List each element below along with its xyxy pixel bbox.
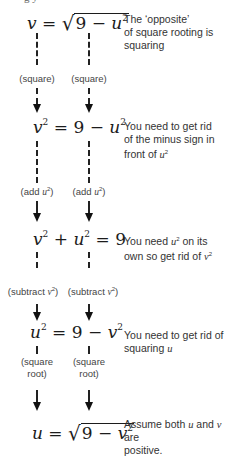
note-4: You need to get rid of squaring u	[124, 329, 239, 355]
equation-4: u2 = 9 − v2	[30, 322, 123, 342]
arrow-down-icon	[85, 213, 93, 222]
radical-sign-icon: √	[68, 421, 81, 445]
operation-label-left: (subtract v2)	[2, 286, 64, 297]
dashed-connector	[36, 141, 38, 183]
eq1-equals: =	[42, 13, 56, 33]
dashed-connector	[88, 304, 90, 312]
dashed-connector	[36, 201, 38, 213]
arrow-down-icon	[85, 104, 93, 113]
note-1: The ‘opposite’ of square rooting is squa…	[124, 13, 239, 52]
dashed-connector	[36, 88, 38, 104]
equation-5: u = √9 − v2	[32, 420, 134, 444]
dashed-connector	[88, 252, 90, 268]
dashed-connector	[88, 141, 90, 183]
arrow-down-icon	[33, 213, 41, 222]
dashed-connector	[88, 390, 90, 402]
eq1-lhs: v	[27, 13, 37, 33]
arrow-down-icon	[85, 402, 93, 411]
dashed-connector	[36, 346, 38, 354]
dashed-connector	[36, 33, 38, 65]
note-3: You need u2 on its own so get rid of v2	[124, 233, 239, 263]
note-2: You need to get rid of the minus sign in…	[124, 120, 239, 161]
operation-label-right: (square)	[58, 73, 120, 84]
note-5: Assume both u and v are positive.	[124, 418, 239, 457]
operation-label-right: (square root)	[58, 356, 120, 380]
dashed-connector	[36, 304, 38, 312]
equation-1: v = √9 − u2	[27, 10, 129, 34]
operation-label-right: (add u2)	[58, 186, 120, 197]
eq1-sqrt: √9 − u2	[62, 10, 129, 34]
radical-sign-icon: √	[62, 11, 75, 35]
dashed-connector	[88, 201, 90, 213]
dashed-connector	[88, 33, 90, 65]
eq1-radicand: 9 − u2	[74, 13, 129, 32]
dashed-connector	[36, 252, 38, 268]
cropped-text-fragment: g y	[24, 0, 38, 3]
equation-2: v2 = 9 − u2	[33, 117, 126, 137]
arrow-down-icon	[33, 402, 41, 411]
equation-3: v2 + u2 = 9	[33, 229, 126, 249]
dashed-connector	[88, 346, 90, 354]
arrow-down-icon	[33, 104, 41, 113]
dashed-connector	[36, 390, 38, 402]
dashed-connector	[88, 88, 90, 104]
arrow-down-icon	[33, 312, 41, 321]
operation-label-right: (subtract v2)	[62, 286, 124, 297]
arrow-down-icon	[85, 312, 93, 321]
